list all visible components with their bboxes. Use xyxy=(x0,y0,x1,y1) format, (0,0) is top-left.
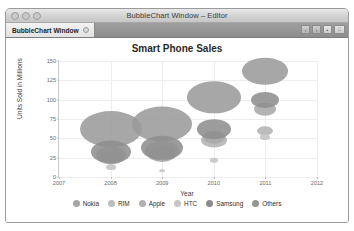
bubble-nokia-2010[interactable] xyxy=(187,82,241,113)
chart-title: Smart Phone Sales xyxy=(6,43,348,54)
legend-item-others[interactable]: Others xyxy=(252,200,281,207)
x-axis-label: Year xyxy=(58,190,316,197)
y-tick-label: 150 xyxy=(47,58,56,64)
bubblechart-window: BubbleChart Window – Editor BubbleChart … xyxy=(5,8,349,223)
legend-swatch-icon xyxy=(73,200,80,207)
y-tick-label: 25 xyxy=(50,155,56,161)
forward-button[interactable]: › xyxy=(312,25,321,34)
bubble-htc-2010[interactable] xyxy=(210,158,218,163)
y-tick-label: 75 xyxy=(50,116,56,122)
legend-swatch-icon xyxy=(108,200,115,207)
legend-item-apple[interactable]: Apple xyxy=(139,200,165,207)
chart-legend: NokiaRIMAppleHTCSamsungOthers xyxy=(6,200,348,207)
legend-item-htc[interactable]: HTC xyxy=(174,200,197,207)
y-tick-label: 50 xyxy=(50,135,56,141)
gridline-horizontal xyxy=(59,177,317,178)
legend-swatch-icon xyxy=(139,200,146,207)
legend-label: Nokia xyxy=(83,200,99,207)
legend-label: Others xyxy=(262,200,281,207)
tab-bubblechart-window[interactable]: BubbleChart Window xyxy=(6,23,95,37)
x-tickmark xyxy=(59,177,60,179)
toolbar-buttons: ‹ › ▪ ⎕ xyxy=(301,25,345,34)
bubble-htc-2009[interactable] xyxy=(159,169,165,172)
back-button[interactable]: ‹ xyxy=(301,25,310,34)
gridline-vertical xyxy=(317,61,318,177)
x-tickmark xyxy=(162,177,163,179)
y-tickmark xyxy=(57,119,59,120)
y-tickmark xyxy=(57,61,59,62)
x-tickmark xyxy=(265,177,266,179)
x-tick-label: 2010 xyxy=(208,180,220,186)
legend-item-samsung[interactable]: Samsung xyxy=(206,200,243,207)
close-button[interactable] xyxy=(11,12,19,20)
layout-button[interactable]: ▪ xyxy=(323,25,332,34)
minimize-button[interactable] xyxy=(22,12,30,20)
plot-area: 0255075100125150200720082009201020112012 xyxy=(58,61,317,178)
x-tick-label: 2009 xyxy=(156,180,168,186)
x-tick-label: 2012 xyxy=(311,180,323,186)
zoom-button[interactable] xyxy=(33,12,41,20)
window-controls[interactable] xyxy=(11,12,41,20)
x-tickmark xyxy=(214,177,215,179)
chart-canvas: Smart Phone Sales Units Sold in Millions… xyxy=(6,38,348,223)
legend-swatch-icon xyxy=(252,200,259,207)
y-tickmark xyxy=(57,138,59,139)
bubble-samsung-2008[interactable] xyxy=(91,141,131,164)
x-tick-label: 2007 xyxy=(53,180,65,186)
bubble-htc-2011[interactable] xyxy=(260,134,270,140)
y-axis-label: Units Sold in Millions xyxy=(16,58,23,119)
legend-label: HTC xyxy=(184,200,197,207)
legend-label: Samsung xyxy=(216,200,243,207)
legend-label: RIM xyxy=(118,200,130,207)
window-tabstrip: BubbleChart Window ‹ › ▪ ⎕ xyxy=(6,23,348,38)
window-titlebar[interactable]: BubbleChart Window – Editor xyxy=(6,9,348,23)
tab-label: BubbleChart Window xyxy=(12,27,79,34)
app-root: BubbleChart Window – Editor BubbleChart … xyxy=(0,0,354,231)
y-tick-label: 100 xyxy=(47,97,56,103)
legend-swatch-icon xyxy=(206,200,213,207)
y-tickmark xyxy=(57,99,59,100)
legend-swatch-icon xyxy=(174,200,181,207)
y-tick-label: 125 xyxy=(47,77,56,83)
y-tickmark xyxy=(57,80,59,81)
bubble-htc-2008[interactable] xyxy=(106,164,116,170)
x-tickmark xyxy=(317,177,318,179)
x-tick-label: 2008 xyxy=(104,180,116,186)
y-tickmark xyxy=(57,157,59,158)
bubble-nokia-2011[interactable] xyxy=(242,58,288,85)
x-tickmark xyxy=(111,177,112,179)
legend-item-nokia[interactable]: Nokia xyxy=(73,200,99,207)
x-tick-label: 2011 xyxy=(259,180,271,186)
panel-toggle-button[interactable]: ⎕ xyxy=(334,25,345,34)
legend-label: Apple xyxy=(149,200,165,207)
legend-item-rim[interactable]: RIM xyxy=(108,200,130,207)
close-icon[interactable] xyxy=(83,27,89,33)
window-title: BubbleChart Window – Editor xyxy=(6,11,348,20)
bubble-samsung-2010[interactable] xyxy=(197,119,231,139)
